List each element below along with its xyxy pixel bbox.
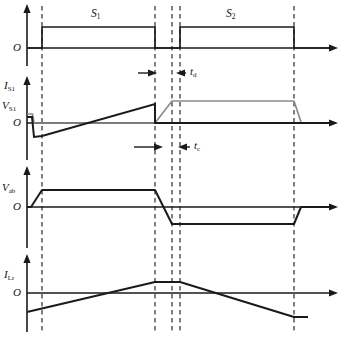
- trace-s2-gate-pulse: [180, 27, 331, 48]
- waveform-canvas: [0, 0, 346, 343]
- label-voltage-s1-sub: S1: [9, 105, 16, 113]
- axis-vab: [23, 166, 338, 248]
- label-switch-s1: S1: [91, 7, 100, 21]
- dashed-guide-lines: [42, 6, 294, 332]
- time-interval-td-arrows: [138, 70, 186, 77]
- label-switch-s1-sub: 1: [97, 12, 101, 21]
- origin-label-switch1: O: [13, 116, 21, 128]
- label-voltage-s1-base: V: [2, 99, 9, 111]
- time-interval-tc-arrows: [134, 144, 190, 151]
- axis-ilr: [23, 254, 338, 332]
- trace-ilr-current: [27, 282, 308, 317]
- label-current-lr: ILr: [4, 268, 14, 282]
- axis-ilr-horizontal-arrow: [329, 289, 338, 296]
- td-arrow-left-head: [148, 70, 157, 77]
- label-switch-s2-sub: 2: [232, 12, 236, 21]
- tc-arrow-right-head: [178, 144, 187, 151]
- origin-label-gate: O: [13, 41, 21, 53]
- tc-arrow-left-head: [154, 144, 163, 151]
- label-time-comm-sub: c: [197, 145, 200, 153]
- axis-switch1-vertical-arrow: [23, 76, 30, 85]
- trace-vs1-voltage: [27, 101, 301, 123]
- label-current-lr-sub: Lr: [8, 274, 15, 282]
- label-switch-s2: S2: [226, 7, 235, 21]
- label-voltage-ab-base: V: [2, 181, 9, 193]
- label-time-dead: td: [190, 65, 197, 79]
- label-voltage-s1: VS1: [2, 99, 16, 113]
- origin-label-vab: O: [13, 200, 21, 212]
- label-current-s1: IS1: [4, 79, 15, 93]
- axis-ilr-vertical-arrow: [23, 254, 30, 263]
- trace-is1-current: [27, 104, 331, 137]
- origin-label-ilr: O: [13, 286, 21, 298]
- axis-vab-vertical-arrow: [23, 166, 30, 175]
- axis-gate-vertical-arrow: [23, 4, 30, 13]
- label-voltage-ab: Vab: [2, 181, 15, 195]
- label-time-dead-sub: d: [193, 71, 197, 79]
- label-current-s1-sub: S1: [8, 85, 15, 93]
- waveform-figure: O O O O S1 S2 IS1 VS1 Vab ILr td tc: [0, 0, 346, 343]
- trace-s1-gate-pulse: [27, 27, 180, 48]
- label-time-comm: tc: [194, 139, 200, 153]
- label-voltage-ab-sub: ab: [9, 187, 16, 195]
